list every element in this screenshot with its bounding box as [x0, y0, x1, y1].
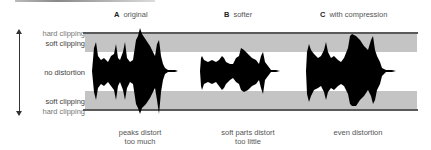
waveform-a — [92, 28, 178, 114]
caption-b: soft parts distorttoo little — [208, 128, 288, 146]
waveform-c — [306, 34, 396, 106]
caption-a: peaks distorttoo much — [100, 128, 180, 146]
waveform-b — [200, 48, 280, 94]
caption-c: even distortion — [318, 128, 398, 137]
